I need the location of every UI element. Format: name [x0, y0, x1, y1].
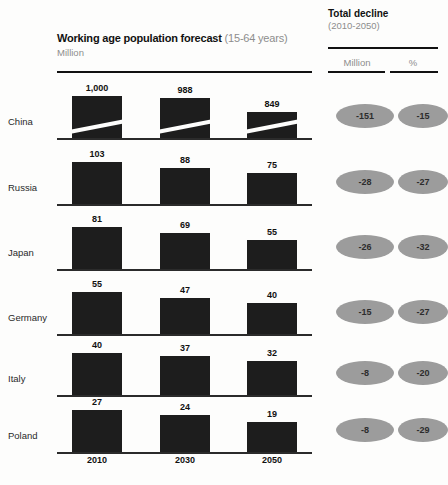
bar	[247, 173, 297, 204]
bar-value-label: 1,000	[66, 83, 128, 93]
decline-percent-pill: -20	[398, 361, 448, 385]
baseline	[57, 334, 312, 336]
rule-total-decline-top	[328, 47, 438, 49]
country-row: Italy403732-8-20	[0, 343, 438, 399]
bar	[72, 353, 122, 395]
country-row: Japan816955-26-32	[0, 217, 438, 273]
plot-area: 554740	[57, 282, 312, 338]
plot-area: 1,000988849	[57, 86, 312, 142]
bar-value-label: 19	[241, 409, 303, 419]
plot-area: 272419	[57, 400, 312, 456]
decline-million-pill: -8	[336, 361, 394, 385]
bar-value-label: 32	[241, 348, 303, 358]
chart-unit-label: Million	[57, 47, 319, 59]
bar	[160, 298, 210, 334]
decline-million-pill: -15	[336, 300, 394, 324]
row-label-china: China	[8, 116, 33, 127]
bar-value-label: 81	[66, 214, 128, 224]
bar-value-label: 88	[154, 155, 216, 165]
chart-title-main: Working age population forecast	[57, 32, 222, 44]
bar-value-label: 24	[154, 402, 216, 412]
bar-value-label: 27	[66, 397, 128, 407]
decline-percent-pill: -27	[398, 300, 448, 324]
bar-value-label: 75	[241, 160, 303, 170]
rule-chart-top	[57, 71, 312, 73]
bar	[72, 96, 122, 138]
total-decline-title: Total decline	[328, 8, 438, 20]
decline-percent-pill: -27	[398, 170, 448, 194]
year-label: 2030	[152, 455, 218, 465]
column-header-million: Million	[328, 57, 386, 68]
year-label: 2010	[64, 455, 130, 465]
row-label-russia: Russia	[8, 182, 37, 193]
row-label-germany: Germany	[8, 312, 47, 323]
bar-value-label: 40	[241, 290, 303, 300]
bar	[160, 98, 210, 138]
decline-percent-pill: -32	[398, 235, 448, 259]
year-label: 2050	[239, 455, 305, 465]
chart-title-subtitle: (15-64 years)	[225, 32, 288, 44]
baseline	[57, 452, 312, 454]
bar	[247, 303, 297, 334]
bar-value-label: 37	[154, 343, 216, 353]
rule-million-col	[328, 71, 385, 73]
bar-value-label: 849	[241, 99, 303, 109]
bar	[247, 240, 297, 269]
bar	[160, 233, 210, 269]
decline-million-pill: -28	[336, 170, 394, 194]
bar	[160, 415, 210, 452]
bar-value-label: 988	[154, 85, 216, 95]
bar-value-label: 55	[241, 227, 303, 237]
country-row: Russia1038875-28-27	[0, 152, 438, 208]
row-label-poland: Poland	[8, 430, 38, 441]
baseline	[57, 269, 312, 271]
chart-title: Working age population forecast (15-64 y…	[57, 32, 319, 45]
decline-percent-pill: -29	[398, 418, 448, 442]
decline-million-pill: -26	[336, 235, 394, 259]
decline-million-pill: -8	[336, 418, 394, 442]
decline-percent-pill: -15	[398, 104, 448, 128]
chart-title-block: Working age population forecast (15-64 y…	[57, 32, 319, 59]
total-decline-header: Total decline (2010-2050)	[328, 8, 438, 32]
bar	[160, 168, 210, 204]
bar	[247, 422, 297, 452]
country-row: Germany554740-15-27	[0, 282, 438, 338]
bar	[72, 410, 122, 452]
decline-million-pill: -151	[336, 104, 394, 128]
bar	[72, 162, 122, 204]
total-decline-period: (2010-2050)	[328, 20, 438, 32]
rule-percent-col	[390, 71, 438, 73]
bar	[72, 227, 122, 269]
bar	[72, 292, 122, 334]
baseline	[57, 204, 312, 206]
bar	[160, 356, 210, 395]
bar-value-label: 103	[66, 149, 128, 159]
plot-area: 816955	[57, 217, 312, 273]
bar-value-label: 69	[154, 220, 216, 230]
row-label-japan: Japan	[8, 247, 34, 258]
plot-area: 1038875	[57, 152, 312, 208]
column-header-percent: %	[390, 57, 436, 68]
bar-value-label: 47	[154, 285, 216, 295]
row-label-italy: Italy	[8, 373, 25, 384]
bar	[247, 361, 297, 395]
baseline	[57, 138, 312, 140]
country-row: China1,000988849-151-15	[0, 86, 438, 142]
bar-value-label: 40	[66, 340, 128, 350]
bar-value-label: 55	[66, 279, 128, 289]
country-row: Poland272419-8-29	[0, 400, 438, 456]
plot-area: 403732	[57, 343, 312, 399]
